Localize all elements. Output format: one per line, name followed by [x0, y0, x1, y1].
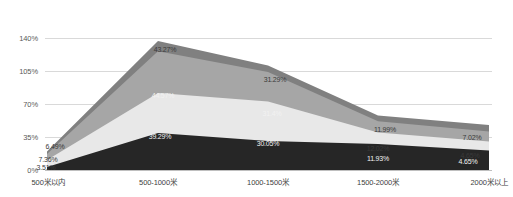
data-label: 30.05%: [257, 140, 280, 147]
xtick-label-0: 500米以内: [10, 176, 86, 187]
area-series-group: [47, 41, 489, 170]
data-label: 39.29%: [149, 133, 172, 140]
ytick-label-140: 140%: [6, 34, 38, 43]
ytick-label-0: 0%: [6, 166, 38, 175]
data-label: 6.49%: [46, 143, 65, 150]
data-label: 7.02%: [463, 134, 482, 141]
xtick-label-4: 2000米以上: [451, 176, 513, 187]
data-label: 31.29%: [264, 76, 287, 83]
ytick-label-70: 70%: [6, 100, 38, 109]
data-label: 31.4%: [263, 110, 282, 117]
data-label: 43.27%: [154, 46, 177, 53]
data-label: 7.36%: [39, 156, 58, 163]
xtick-label-1: 500-1000米: [120, 176, 196, 187]
data-label: 44.57%: [152, 92, 175, 99]
data-label: 4.65%: [459, 158, 478, 165]
ytick-label-105: 105%: [6, 67, 38, 76]
data-label: 11.93%: [367, 155, 389, 162]
data-label: 12.02%: [367, 145, 390, 152]
xtick-label-2: 1000-1500米: [230, 176, 306, 187]
data-label: 11.99%: [374, 126, 396, 133]
data-label: 3.51%: [37, 164, 56, 171]
ytick-label-35: 35%: [6, 133, 38, 142]
xtick-label-3: 1500-2000米: [340, 176, 416, 187]
